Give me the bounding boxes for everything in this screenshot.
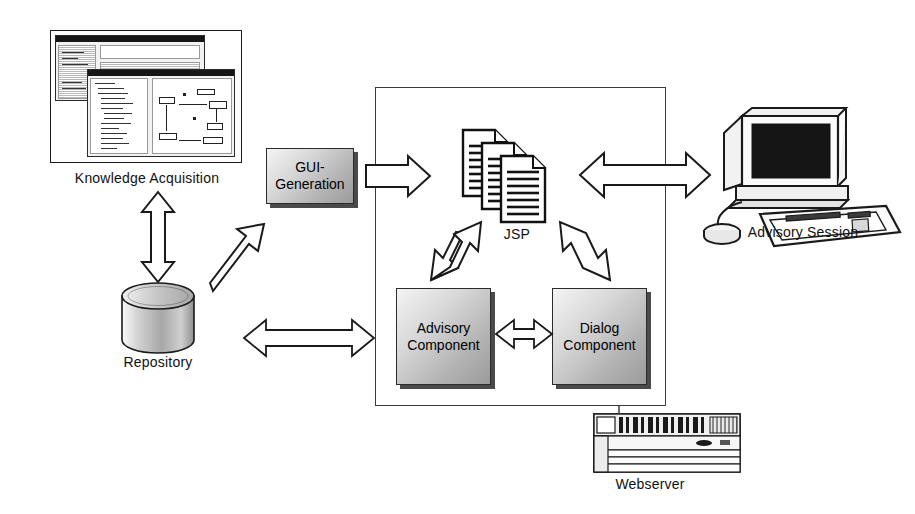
advisory-session-label: Advisory Session xyxy=(708,224,898,240)
connector-repository-to-container xyxy=(244,320,374,356)
rack-server-icon xyxy=(594,414,740,472)
diagram-vector-layer xyxy=(0,0,915,514)
connector-knowledge-acquisition-to-repository xyxy=(142,192,174,282)
connector-gui-generation-to-container xyxy=(366,156,430,196)
jsp-label: JSP xyxy=(462,226,572,242)
connector-advisory-component-to-dialog-component xyxy=(496,320,552,348)
connector-jsp-to-advisory-session xyxy=(580,153,710,197)
database-cylinder-icon xyxy=(122,283,194,353)
architecture-diagram: Knowledge Acquisition GUI- Generation Ad… xyxy=(0,0,915,514)
webserver-label: Webserver xyxy=(568,476,732,492)
repository-label: Repository xyxy=(88,354,228,370)
connector-repository-to-gui-generation xyxy=(210,224,264,291)
documents-stack-icon xyxy=(463,130,545,222)
